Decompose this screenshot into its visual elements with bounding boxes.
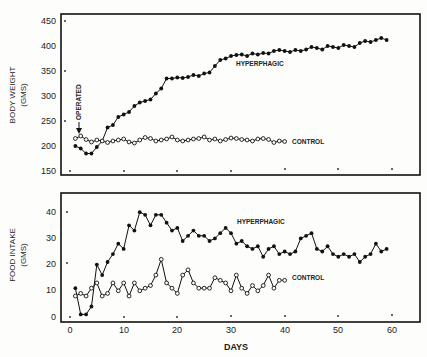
hyperphagic-point xyxy=(277,48,281,52)
reference-dot xyxy=(337,168,339,170)
hyperphagic-point xyxy=(106,260,110,264)
ytick-400: 400 xyxy=(41,41,56,51)
hyperphagic-point xyxy=(347,44,351,48)
hyperphagic-point xyxy=(283,49,287,53)
reference-dot xyxy=(64,120,66,122)
control-point xyxy=(234,137,238,141)
control-point xyxy=(267,273,271,277)
hyperphagic-point xyxy=(385,247,389,251)
hyperphagic-point xyxy=(111,123,115,127)
control-point xyxy=(181,273,185,277)
control-point xyxy=(165,281,169,285)
hyperphagic-point xyxy=(374,38,378,42)
control-point xyxy=(122,281,126,285)
control-point xyxy=(100,139,104,143)
top-y-label: BODY WEIGHT (GMS) xyxy=(8,67,28,124)
x-axis-label: DAYS xyxy=(224,342,248,352)
hyperphagic-point xyxy=(197,74,201,78)
reference-dot xyxy=(64,20,66,22)
hyperphagic-point xyxy=(310,231,314,235)
operated-annotation: OPERATED xyxy=(75,84,82,134)
hyperphagic-point xyxy=(90,152,94,156)
ytick-20: 20 xyxy=(46,259,56,269)
control-point xyxy=(95,138,99,142)
control-point xyxy=(149,137,153,141)
control-point xyxy=(149,284,153,288)
hyperphagic-point xyxy=(353,45,357,49)
hyperphagic-point xyxy=(116,242,120,246)
reference-dot xyxy=(69,170,71,172)
reference-dot xyxy=(176,316,178,318)
hyperphagic-point xyxy=(256,244,260,248)
hyperphagic-point xyxy=(100,273,104,277)
hyperphagic-point xyxy=(116,115,120,119)
reference-dot xyxy=(66,211,68,213)
control-point xyxy=(218,139,222,143)
ytick-40: 40 xyxy=(46,207,56,217)
control-point xyxy=(234,273,238,277)
hyperphagic-point xyxy=(181,239,185,243)
hyperphagic-point xyxy=(133,104,137,108)
top-series xyxy=(73,36,388,155)
control-point xyxy=(213,137,217,141)
reference-dot xyxy=(230,170,232,172)
control-point xyxy=(90,140,94,144)
hyperphagic-point xyxy=(229,231,233,235)
top-grid-dots xyxy=(64,20,393,172)
hyperphagic-point xyxy=(277,252,281,256)
control-point xyxy=(245,138,249,142)
hyperphagic-point xyxy=(165,77,169,81)
hyperphagic-point xyxy=(272,49,276,53)
hyperphagic-point xyxy=(133,229,137,233)
bottom-y-label-line2: (GMS) xyxy=(19,243,28,267)
operated-label: OPERATED xyxy=(75,84,82,120)
control-point xyxy=(192,281,196,285)
hyperphagic-point xyxy=(363,39,367,43)
hyperphagic-point xyxy=(218,231,222,235)
control-point xyxy=(272,141,276,145)
hyperphagic-point xyxy=(379,36,383,40)
hyperphagic-point xyxy=(208,71,212,75)
control-point xyxy=(202,286,206,290)
hyperphagic-point xyxy=(369,252,373,256)
hyperphagic-point xyxy=(197,234,201,238)
control-point xyxy=(111,139,115,143)
hyperphagic-point xyxy=(202,234,206,238)
hyperphagic-point xyxy=(315,46,319,50)
top-plot-frame xyxy=(61,14,420,175)
top-y-ticks: 450 400 350 300 250 200 150 xyxy=(41,16,56,176)
hyperphagic-point xyxy=(267,52,271,56)
reference-dot xyxy=(230,315,232,317)
hyperphagic-point xyxy=(208,239,212,243)
control-point xyxy=(218,278,222,282)
hyperphagic-point xyxy=(229,54,233,58)
hyperphagic-point xyxy=(154,92,158,96)
hyperphagic-point xyxy=(186,234,190,238)
hyperphagic-point xyxy=(261,255,265,259)
control-point xyxy=(283,140,287,144)
control-point xyxy=(197,286,201,290)
hyperphagic-point xyxy=(143,213,147,217)
hyperphagic-point xyxy=(294,250,298,254)
top-y-label-line2: (GMS) xyxy=(19,83,28,107)
hyperphagic-point xyxy=(138,101,142,105)
hyperphagic-point xyxy=(331,45,335,49)
control-point xyxy=(138,138,142,142)
control-point xyxy=(256,289,260,293)
hyperphagic-point xyxy=(84,152,88,156)
control-point xyxy=(165,137,169,141)
hyperphagic-point xyxy=(95,145,99,149)
reference-dot xyxy=(391,314,393,316)
control-point xyxy=(186,138,190,142)
hyperphagic-point xyxy=(143,99,147,103)
ytick-350: 350 xyxy=(41,66,56,76)
hyperphagic-point xyxy=(159,213,163,217)
control-point xyxy=(84,138,88,142)
bottom-series xyxy=(73,210,388,316)
control-point xyxy=(73,294,77,298)
hyperphagic-point xyxy=(331,252,335,256)
control-point xyxy=(272,286,276,290)
control-point xyxy=(251,139,255,143)
hyperphagic-point xyxy=(353,252,357,256)
control-point xyxy=(79,134,83,138)
